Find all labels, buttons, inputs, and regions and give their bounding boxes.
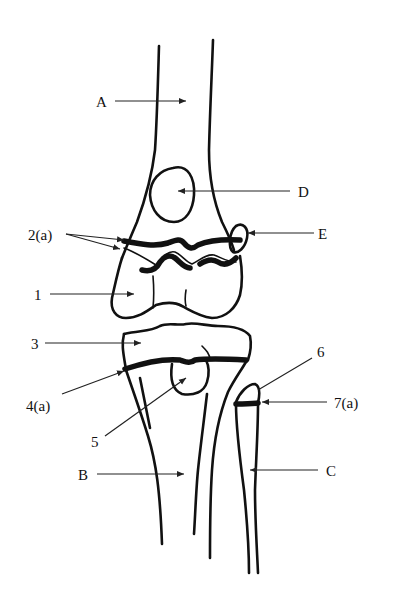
- label-d: D: [298, 184, 309, 200]
- tibial-epiphysis: [124, 323, 251, 360]
- growth-plate-7a: [236, 403, 258, 404]
- label-4a: 4(a): [26, 398, 50, 415]
- tibia: [123, 323, 251, 558]
- label-c: C: [326, 463, 336, 479]
- label-7a: 7(a): [334, 395, 358, 412]
- label-a: A: [96, 94, 107, 110]
- label-b: B: [78, 467, 88, 483]
- label-6: 6: [317, 344, 325, 360]
- structure-d: [150, 167, 194, 222]
- label-2a: 2(a): [28, 227, 52, 244]
- growth-plate-2a: [124, 240, 240, 248]
- structure-5: [171, 360, 208, 395]
- fibular-head-6: [236, 384, 259, 403]
- label-3: 3: [31, 336, 39, 352]
- label-5: 5: [91, 434, 99, 450]
- growth-plate-4a: [125, 359, 246, 369]
- knee-diagram: A D E 2(a) 1 3 4(a) 5 6 7(a) B C: [0, 0, 409, 600]
- label-1: 1: [34, 287, 42, 303]
- label-e: E: [318, 226, 327, 242]
- femur: [112, 40, 248, 318]
- fibula: [236, 384, 259, 573]
